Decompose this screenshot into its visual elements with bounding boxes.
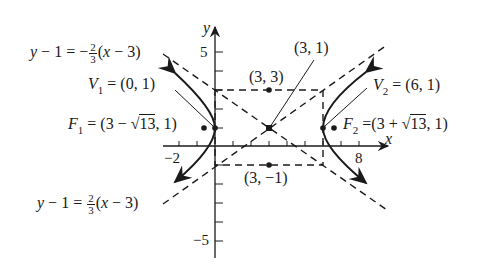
vertex-1-label: V1 = (0, 1) xyxy=(88,76,155,92)
focus-2-label: F2 =(3 + √13, 1) xyxy=(343,116,448,132)
asymptote-negative-label: yy − 1 = − − 1 = −23(x − 3) xyxy=(30,42,140,65)
x-tick-8: 8 xyxy=(355,151,363,166)
hyperbola-left-branch xyxy=(175,73,215,182)
top-point-label: (3, 3) xyxy=(249,69,284,85)
bottom-point-label: (3, −1) xyxy=(244,170,288,186)
vertex-2-label: V2 = (6, 1) xyxy=(373,77,440,93)
y-tick-neg5: −5 xyxy=(193,233,209,248)
x-ticks xyxy=(179,141,359,146)
y-tick-5: 5 xyxy=(200,45,208,60)
hyperbola-graph xyxy=(0,0,498,271)
center-label: (3, 1) xyxy=(294,40,329,56)
x-tick-neg2: −2 xyxy=(164,151,180,166)
y-axis-label: y xyxy=(203,20,210,36)
asymptote-positive-label: y − 1 = 23(x − 3) xyxy=(37,193,138,216)
focus-1-label: F1 = (3 − √13, 1) xyxy=(68,116,177,132)
x-axis-label: x xyxy=(385,131,392,147)
